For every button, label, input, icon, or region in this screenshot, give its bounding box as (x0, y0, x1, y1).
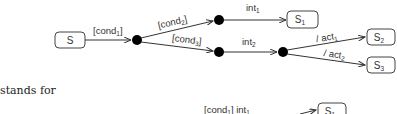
state-s1: S1 (287, 11, 318, 28)
statechart-diagram: S [cond1] [cond2] [cond3] int1 S1 int2 /… (0, 0, 397, 114)
junction-4 (278, 47, 288, 57)
partial-diagram: [cond1] int1 S1 (204, 103, 346, 114)
stands-for-text: stands for (0, 84, 56, 97)
label-cond2: [cond2] (157, 13, 188, 31)
partial-label: [cond1] int1 (204, 104, 250, 114)
junction-1 (132, 35, 142, 45)
label-cond1: [cond1] (93, 25, 123, 37)
junction-2 (214, 15, 224, 25)
label-int2: int2 (242, 36, 256, 48)
svg-text:S: S (67, 35, 74, 46)
state-s3: S3 (367, 57, 395, 73)
partial-arrow (300, 110, 316, 114)
label-cond3: [cond3] (171, 32, 202, 48)
junction-3 (214, 47, 224, 57)
label-int1: int1 (246, 2, 260, 14)
state-s2: S2 (367, 29, 395, 45)
state-s: S (55, 32, 85, 48)
